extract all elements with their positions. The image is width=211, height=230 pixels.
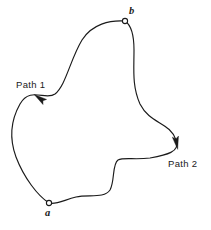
point-b-label: b [129,6,134,17]
point-b-marker [122,18,127,23]
path-1-arrow-icon [32,92,46,104]
diagram-canvas [0,0,211,230]
point-a-marker [46,200,51,205]
path-2-label: Path 2 [168,159,197,169]
path-1-label: Path 1 [16,80,45,90]
curve-diagram-figure: Path 1 Path 2 a b [0,0,211,230]
path-1-curve [12,21,125,203]
path-2-curve [49,21,177,203]
point-a-label: a [45,208,50,219]
